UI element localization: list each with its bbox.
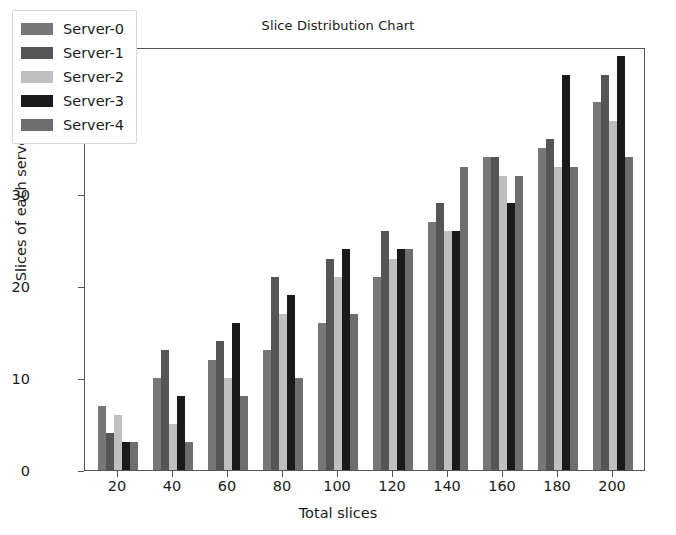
bar [601, 75, 609, 470]
bar [609, 121, 617, 470]
bar [460, 167, 468, 470]
y-tick-label: 0 [0, 463, 30, 479]
x-tick-mark [447, 471, 448, 477]
bar [177, 396, 185, 470]
bar [122, 442, 130, 470]
bar [185, 442, 193, 470]
bar [153, 378, 161, 470]
x-tick-label: 180 [527, 478, 587, 494]
bar [452, 231, 460, 470]
plot-area [84, 48, 645, 471]
bar [389, 259, 397, 471]
bar [279, 314, 287, 470]
bar [538, 148, 546, 470]
chart-legend: Server-0Server-1Server-2Server-3Server-4 [12, 10, 137, 144]
bar [617, 56, 625, 470]
bar [130, 442, 138, 470]
bar [208, 360, 216, 470]
y-tick-label: 20 [0, 279, 30, 295]
legend-item[interactable]: Server-0 [21, 17, 124, 41]
bar [562, 75, 570, 470]
x-tick-mark [117, 471, 118, 477]
x-tick-label: 20 [87, 478, 147, 494]
bar [240, 396, 248, 470]
chart-figure: Slice Distribution Chart Slices of each … [0, 0, 676, 535]
x-tick-label: 80 [252, 478, 312, 494]
x-tick-label: 120 [362, 478, 422, 494]
bar [554, 167, 562, 470]
bar [342, 249, 350, 470]
x-tick-mark [337, 471, 338, 477]
bar [318, 323, 326, 470]
bar [515, 176, 523, 470]
bar [106, 433, 114, 470]
x-tick-label: 100 [307, 478, 367, 494]
bar [326, 259, 334, 471]
legend-label: Server-3 [63, 93, 124, 109]
x-tick-mark [612, 471, 613, 477]
legend-item[interactable]: Server-1 [21, 41, 124, 65]
bars-layer [85, 49, 644, 470]
x-tick-label: 40 [142, 478, 202, 494]
x-tick-mark [392, 471, 393, 477]
bar [350, 314, 358, 470]
x-tick-label: 60 [197, 478, 257, 494]
legend-swatch-icon [21, 95, 53, 107]
legend-item[interactable]: Server-4 [21, 113, 124, 137]
x-tick-mark [172, 471, 173, 477]
bar [483, 157, 491, 470]
bar [271, 277, 279, 470]
legend-swatch-icon [21, 71, 53, 83]
x-axis-label: Total slices [0, 505, 676, 521]
bar [546, 139, 554, 470]
legend-label: Server-4 [63, 117, 124, 133]
bar [216, 341, 224, 470]
bar [224, 378, 232, 470]
legend-label: Server-1 [63, 45, 124, 61]
bar [334, 277, 342, 470]
legend-item[interactable]: Server-2 [21, 65, 124, 89]
x-tick-mark [282, 471, 283, 477]
x-tick-mark [502, 471, 503, 477]
legend-label: Server-0 [63, 21, 124, 37]
bar [499, 176, 507, 470]
x-tick-label: 160 [472, 478, 532, 494]
y-tick-label: 30 [0, 187, 30, 203]
y-tick-mark [78, 471, 84, 472]
bar [436, 203, 444, 470]
bar [444, 231, 452, 470]
bar [405, 249, 413, 470]
y-tick-label: 10 [0, 371, 30, 387]
legend-swatch-icon [21, 23, 53, 35]
bar [428, 222, 436, 470]
bar [397, 249, 405, 470]
x-tick-mark [227, 471, 228, 477]
bar [593, 102, 601, 470]
bar [263, 350, 271, 470]
x-tick-label: 140 [417, 478, 477, 494]
bar [373, 277, 381, 470]
bar [114, 415, 122, 470]
bar [570, 167, 578, 470]
legend-swatch-icon [21, 47, 53, 59]
bar [381, 231, 389, 470]
legend-swatch-icon [21, 119, 53, 131]
bar [169, 424, 177, 470]
bar [287, 295, 295, 470]
bar [161, 350, 169, 470]
x-tick-label: 200 [582, 478, 642, 494]
x-tick-mark [557, 471, 558, 477]
bar [295, 378, 303, 470]
legend-item[interactable]: Server-3 [21, 89, 124, 113]
bar [625, 157, 633, 470]
legend-label: Server-2 [63, 69, 124, 85]
bar [491, 157, 499, 470]
bar [232, 323, 240, 470]
bar [507, 203, 515, 470]
bar [98, 406, 106, 470]
